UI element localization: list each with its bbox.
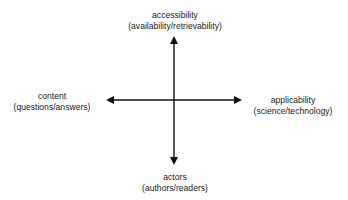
top-axis-title: accessibility	[128, 10, 222, 21]
right-axis-subtitle: (science/technology)	[254, 106, 333, 117]
top-axis-label: accessibility (availability/retrievabili…	[128, 10, 222, 31]
top-axis-subtitle: (availability/retrievability)	[128, 21, 222, 32]
bottom-axis-subtitle: (authors/readers)	[142, 183, 208, 194]
bottom-axis-label: actors (authors/readers)	[142, 172, 208, 193]
left-axis-label: content (questions/answers)	[14, 91, 91, 112]
right-axis-title: applicability	[254, 95, 333, 106]
bottom-axis-title: actors	[142, 172, 208, 183]
left-axis-title: content	[14, 91, 91, 102]
right-axis-label: applicability (science/technology)	[254, 95, 333, 116]
left-axis-subtitle: (questions/answers)	[14, 102, 91, 113]
